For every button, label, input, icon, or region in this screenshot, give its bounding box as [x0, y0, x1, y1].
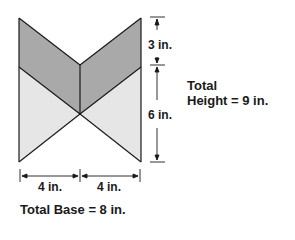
top-segment-label: 3 in. [148, 38, 172, 52]
left-base-label: 4 in. [38, 180, 62, 194]
bottom-segment-label: 6 in. [148, 108, 172, 122]
total-height-label-line1: Total [187, 78, 217, 93]
right-base-label: 4 in. [97, 180, 121, 194]
total-height-label-line2: Height = 9 in. [187, 93, 268, 108]
total-base-label: Total Base = 8 in. [20, 202, 126, 217]
